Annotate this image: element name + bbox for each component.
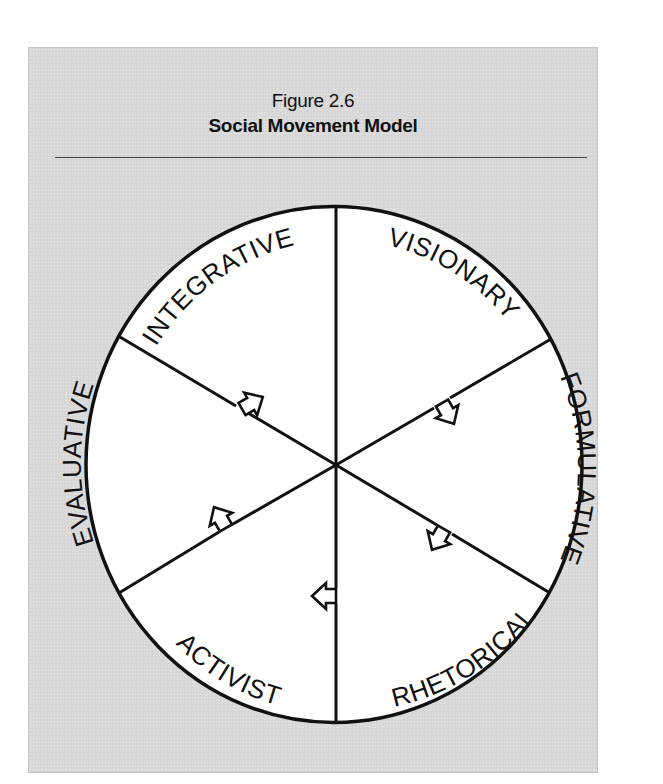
social-movement-wheel: INTEGRATIVE VISIONARY FORMULATIVE RHETOR… <box>0 0 663 784</box>
